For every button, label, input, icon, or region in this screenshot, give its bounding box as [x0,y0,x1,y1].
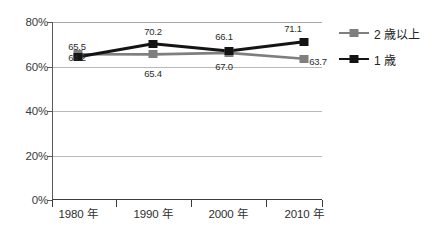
point-value-label: 63.7 [309,56,327,67]
point-value-label: 64.2 [68,52,86,63]
line-chart: 80% 60% 40% 20% 0% 65.5 64.2 70.2 65.4 6… [0,0,444,228]
data-point-1sai-2010 [300,38,309,46]
point-value-label: 65.4 [144,68,162,79]
x-axis-label-1980: 1980 年 [38,205,118,221]
x-axis-label-1990: 1990 年 [113,205,193,221]
point-value-label: 71.1 [284,23,302,34]
point-value-label: 66.1 [215,31,233,42]
y-axis-tick-label: 40% [4,105,48,117]
legend-label: 2 歳以上 [374,25,420,42]
legend-item-1sai[interactable]: 1 歳 [339,46,443,72]
point-value-label: 67.0 [215,61,233,72]
y-axis-tick-label: 20% [4,150,48,162]
data-point-1sai-2000 [224,47,233,55]
data-point-2saiijou-2010 [300,55,309,63]
series-lines [52,22,322,200]
legend-marker-square-icon [339,54,369,64]
legend-marker-square-icon [339,28,369,38]
series-line-2saiijou [78,53,305,59]
y-axis-tick-label: 60% [4,61,48,73]
y-axis-tick-label: 80% [4,16,48,28]
legend-label: 1 歳 [374,51,396,68]
legend-item-2saiijou[interactable]: 2 歳以上 [339,20,443,46]
x-axis-label-2000: 2000 年 [188,205,268,221]
data-point-1sai-1990 [149,40,158,48]
chart-legend: 2 歳以上 1 歳 [339,20,443,72]
point-value-label: 70.2 [144,26,162,37]
x-axis-label-2010: 2010 年 [264,205,344,221]
point-value-label: 65.5 [68,41,86,52]
data-point-2saiijou-1990 [149,50,158,58]
